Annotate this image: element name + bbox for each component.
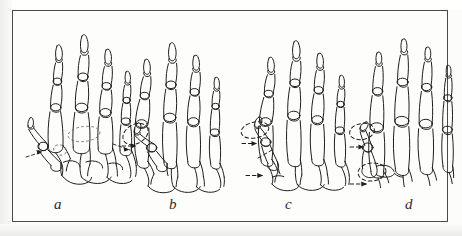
panel-label-d: d	[405, 196, 413, 213]
figure-root: a b c d Four skeletal hand drawings show…	[0, 0, 462, 236]
page-margin-left	[0, 0, 12, 236]
page-margin-top	[0, 0, 462, 9]
panel-label-c: c	[285, 196, 292, 213]
panel-label-b: b	[169, 196, 177, 213]
page-margin-bottom	[0, 224, 462, 236]
figure-border	[12, 10, 448, 222]
panel-label-a: a	[54, 196, 62, 213]
